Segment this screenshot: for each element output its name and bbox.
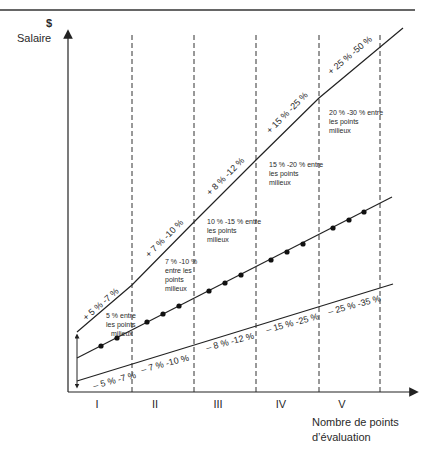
svg-text:milieux: milieux xyxy=(269,179,291,186)
y-axis-label: Salaire xyxy=(17,32,51,44)
svg-text:les points: les points xyxy=(329,118,359,126)
svg-text:les points: les points xyxy=(207,227,237,235)
svg-text:milieux: milieux xyxy=(111,330,133,337)
midpoint-note-3: 10 % -15 % entre les points milieux xyxy=(207,218,261,243)
midpoint-note-4: 15 % -20 % entre les points milieux xyxy=(269,161,323,186)
lower-label-5: – 25 % -35 % xyxy=(327,293,382,317)
x-axis-label-line1: Nombre de points xyxy=(312,416,399,428)
lower-label-1: – 5 % -7 % xyxy=(92,370,137,391)
upper-label-5: + 25 % -50 % xyxy=(326,34,374,77)
midpoint-note-5: 20 % -30 % entre les points milieux xyxy=(329,109,383,134)
svg-text:les points: les points xyxy=(269,170,299,178)
lower-label-2: – 7 % -10 % xyxy=(140,353,190,375)
y-axis-symbol: $ xyxy=(46,17,52,29)
svg-text:points: points xyxy=(165,276,184,284)
svg-text:10 % -15 % entre: 10 % -15 % entre xyxy=(207,218,261,225)
class-label-2: II xyxy=(152,398,158,410)
class-label-5: V xyxy=(338,398,346,410)
svg-text:5 % entre: 5 % entre xyxy=(106,312,136,319)
class-boundaries xyxy=(132,35,380,392)
upper-label-2: + 7 % -10 % xyxy=(143,217,185,259)
svg-text:les points: les points xyxy=(106,321,136,329)
svg-text:7 % -10 %: 7 % -10 % xyxy=(165,258,197,265)
class-label-1: I xyxy=(95,398,98,410)
midpoint-note-1: 5 % entre les points milieux xyxy=(106,312,136,337)
salary-structure-diagram: $ Salaire Nombre de points d’évaluation … xyxy=(0,0,427,453)
svg-text:milieux: milieux xyxy=(329,127,351,134)
midpoint-note-2: 7 % -10 % entre les points milieux xyxy=(165,258,197,292)
svg-text:milieux: milieux xyxy=(165,285,187,292)
class-label-3: III xyxy=(213,398,222,410)
svg-text:entre les: entre les xyxy=(165,267,192,274)
x-axis-label-line2: d’évaluation xyxy=(312,431,371,443)
svg-text:15 % -20 % entre: 15 % -20 % entre xyxy=(269,161,323,168)
maximum-line xyxy=(77,28,403,332)
class-label-4: IV xyxy=(276,398,287,410)
svg-text:milieux: milieux xyxy=(207,236,229,243)
svg-text:20 % -30 % entre: 20 % -30 % entre xyxy=(329,109,383,116)
